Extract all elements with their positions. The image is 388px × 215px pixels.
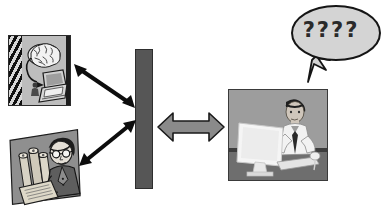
arrow-scholar-to-barrier: [79, 120, 136, 166]
diagram-canvas: ????: [0, 0, 388, 215]
speech-bubble-shape: [288, 2, 386, 88]
scholar-photo: [3, 125, 86, 208]
mouse-icon: [310, 152, 320, 160]
scholar-illustration: [3, 125, 86, 208]
laptop-icon: [39, 70, 67, 102]
bubble-body: [292, 6, 380, 60]
arrow-barrier-to-user: [158, 113, 224, 141]
brain-computer-photo: [8, 35, 71, 106]
vertical-barrier: [135, 49, 153, 189]
arrow-brain-to-barrier: [74, 64, 135, 108]
brain-icon: [28, 44, 60, 68]
speech-bubble: ????: [288, 2, 386, 88]
man-at-computer-photo: [228, 89, 328, 181]
brain-to-laptop-illustration: [9, 36, 71, 106]
man-at-computer-illustration: [229, 90, 327, 180]
